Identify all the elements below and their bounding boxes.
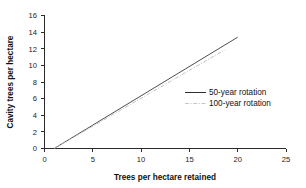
x-tick-label: 15: [185, 155, 193, 164]
y-axis-title: Cavity trees per hectare: [6, 35, 15, 128]
x-axis-title: Trees per hectare retained: [114, 173, 216, 182]
y-tick-label: 10: [29, 61, 37, 70]
x-tick-label: 25: [282, 155, 290, 164]
line-chart: 0 2 4 6 8 10 12 14 16 0 5 10 15 20 25 Tr…: [0, 0, 306, 188]
y-tick-label: 2: [33, 128, 37, 137]
y-tick-label: 4: [33, 111, 37, 120]
x-tick-label: 0: [42, 155, 46, 164]
y-tick-label: 14: [29, 28, 37, 37]
x-tick-label: 10: [137, 155, 145, 164]
legend-label-100-year-rotation: 100-year rotation: [209, 99, 271, 108]
y-tick-label: 8: [33, 78, 37, 87]
y-tick-label: 0: [33, 144, 37, 153]
x-tick-label: 5: [91, 155, 95, 164]
legend-label-50-year-rotation: 50-year rotation: [209, 88, 267, 97]
y-tick-label: 6: [33, 94, 37, 103]
x-tick-label: 20: [233, 155, 241, 164]
y-tick-label: 12: [29, 45, 37, 54]
chart-figure: 0 2 4 6 8 10 12 14 16 0 5 10 15 20 25 Tr…: [0, 0, 306, 188]
y-tick-label: 16: [29, 11, 37, 20]
